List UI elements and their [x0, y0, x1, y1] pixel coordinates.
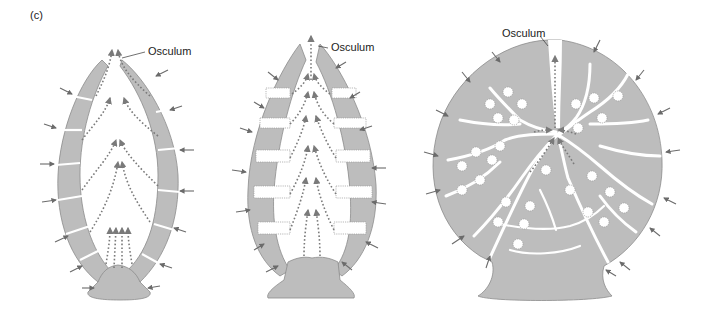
sponge-body-plans-figure: Osculum: [0, 0, 705, 314]
asconoid-body-wall-right: [120, 60, 178, 282]
asconoid-body-wall-left: [58, 60, 110, 282]
asconoid-osculum-leader: [122, 52, 145, 58]
syconoid-diagram: Osculum: [232, 36, 386, 298]
leuconoid-diagram: Osculum: [424, 27, 680, 301]
syconoid-osculum-label: Osculum: [331, 41, 374, 53]
asconoid-osculum-label: Osculum: [148, 45, 191, 57]
asconoid-diagram: Osculum: [40, 45, 194, 300]
leuconoid-osculum-label: Osculum: [502, 27, 545, 39]
